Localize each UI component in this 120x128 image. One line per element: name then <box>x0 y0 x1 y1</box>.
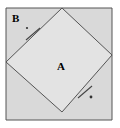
region-label-a: A <box>57 61 65 72</box>
tick-dot-lower-right <box>90 96 93 99</box>
geometry-figure: B A <box>0 0 120 128</box>
region-label-b: B <box>12 13 19 24</box>
tick-dot-upper-left <box>26 27 28 29</box>
